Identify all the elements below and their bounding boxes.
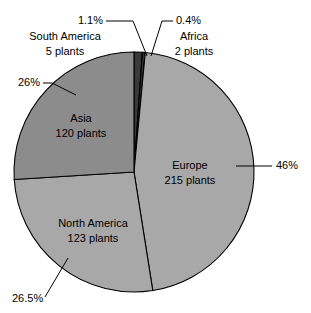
label-asia-plants: 120 plants	[56, 127, 107, 139]
label-africa-plants: 2 plants	[175, 45, 214, 57]
label-africa-name: Africa	[180, 30, 209, 42]
label-africa-percent: 0.4%	[176, 14, 201, 26]
leader-line-south-america-stem	[133, 21, 147, 56]
label-europe-name: Europe	[172, 159, 207, 171]
label-north-america-plants: 123 plants	[68, 232, 119, 244]
pie-slice-europe[interactable]	[134, 53, 254, 291]
pie-chart-canvas: 1.1% South America 5 plants 0.4% Africa …	[0, 0, 311, 313]
label-asia-name: Asia	[70, 112, 92, 124]
label-south-america-name: South America	[29, 30, 101, 42]
label-north-america-percent: 26.5%	[12, 292, 43, 304]
leader-line-africa-stem	[151, 21, 162, 56]
label-europe-percent: 46%	[276, 159, 298, 171]
pie-slice-group	[14, 52, 254, 292]
pie-chart: 1.1% South America 5 plants 0.4% Africa …	[0, 0, 311, 313]
label-south-america-plants: 5 plants	[46, 45, 85, 57]
label-asia-percent: 26%	[18, 76, 40, 88]
label-north-america-name: North America	[58, 217, 129, 229]
label-south-america-percent: 1.1%	[78, 14, 103, 26]
label-europe-plants: 215 plants	[165, 174, 216, 186]
